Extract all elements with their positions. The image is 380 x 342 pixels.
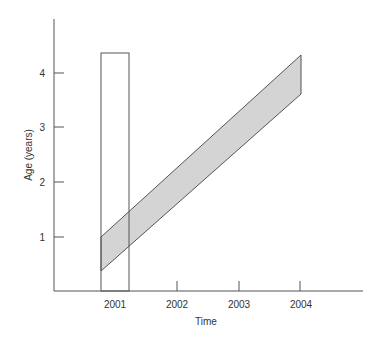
y-tick-label-2: 2 [39,177,45,188]
y-axis-title: Age (years) [23,129,34,181]
y-ticks [54,73,64,237]
x-tick-label-2001: 2001 [104,299,127,310]
x-ticks [177,281,300,291]
y-tick-label-1: 1 [39,232,45,243]
y-tick-label-4: 4 [39,68,45,79]
cohort-band [101,55,301,271]
x-tick-label-2004: 2004 [290,299,313,310]
y-tick-label-3: 3 [39,122,45,133]
x-axis-title: Time [195,316,217,327]
x-tick-label-2002: 2002 [166,299,189,310]
x-tick-label-2003: 2003 [228,299,251,310]
lexis-diagram: 4 3 2 1 2001 2002 2003 2004 Time Age (ye… [0,0,380,342]
